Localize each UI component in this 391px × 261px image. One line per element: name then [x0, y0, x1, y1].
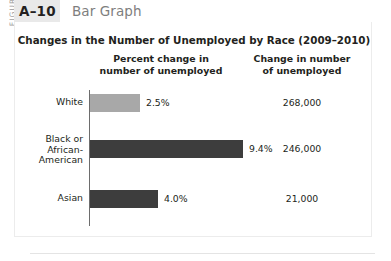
bar: [90, 190, 158, 208]
row-label: Black or African- American: [15, 134, 83, 166]
row-count-value: 21,000: [242, 190, 362, 208]
row-label-line: African-: [47, 144, 83, 155]
footer-divider: [30, 253, 375, 254]
column-header-percent: Percent change in number of unemployed: [91, 53, 231, 76]
row-label: White: [15, 97, 83, 108]
row-label-line: Asian: [58, 192, 83, 203]
column-header-number-line2: of unemployed: [263, 65, 342, 76]
column-header-percent-line2: number of unemployed: [100, 65, 223, 76]
plot-area: White 2.5% 268,000 Black or African- Ame…: [15, 90, 373, 230]
column-headers: Percent change in number of unemployed C…: [15, 53, 373, 83]
row-count-value: 268,000: [242, 94, 362, 112]
chart-panel: Changes in the Number of Unemployed by R…: [14, 22, 372, 237]
row-label-line: American: [39, 154, 83, 165]
figure-number: A–10: [19, 3, 56, 19]
column-header-number: Change in number of unemployed: [242, 53, 362, 76]
chart-title: Changes in the Number of Unemployed by R…: [15, 34, 373, 46]
table-row: Black or African- American 9.4% 246,000: [15, 140, 373, 166]
figure-kind-label: Bar Graph: [72, 3, 142, 19]
row-label: Asian: [15, 193, 83, 204]
bar-value-label: 2.5%: [146, 94, 170, 112]
bar: [90, 94, 140, 112]
column-header-number-line1: Change in number: [254, 53, 351, 64]
column-header-percent-line1: Percent change in: [113, 53, 209, 64]
row-label-line: Black or: [45, 133, 83, 144]
figure-header: FIGURE A–10 Bar Graph: [0, 0, 391, 22]
table-row: White 2.5% 268,000: [15, 94, 373, 120]
row-count-value: 246,000: [242, 140, 362, 158]
bar-value-label: 4.0%: [164, 190, 188, 208]
bar: [90, 140, 243, 158]
row-label-line: White: [56, 96, 83, 107]
table-row: Asian 4.0% 21,000: [15, 190, 373, 216]
